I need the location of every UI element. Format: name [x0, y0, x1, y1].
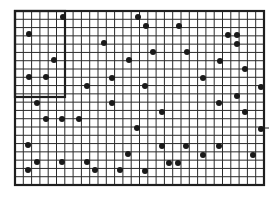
dot — [135, 14, 141, 20]
dot — [159, 143, 165, 149]
dot — [159, 109, 165, 115]
dot — [200, 152, 206, 158]
dot — [183, 143, 189, 149]
dot — [258, 84, 264, 90]
dot — [109, 75, 115, 81]
dot-grid-figure — [0, 0, 277, 199]
dot — [176, 23, 182, 29]
dot — [34, 159, 40, 165]
dot — [43, 74, 49, 80]
dot — [143, 23, 149, 29]
dot — [242, 66, 248, 72]
dot — [51, 57, 57, 63]
dot — [234, 32, 240, 38]
dot — [34, 100, 40, 106]
dot — [134, 125, 140, 131]
dot — [117, 167, 123, 173]
dot — [175, 160, 181, 166]
dot — [234, 93, 240, 99]
dot — [217, 58, 223, 64]
dot — [25, 167, 31, 173]
dot — [76, 116, 82, 122]
dot — [258, 126, 264, 132]
dot — [250, 152, 256, 158]
dot — [59, 116, 65, 122]
dot — [242, 109, 248, 115]
dot — [125, 151, 131, 157]
dot — [101, 40, 107, 46]
dot — [234, 41, 240, 47]
dot — [225, 32, 231, 38]
dot — [150, 49, 156, 55]
dot — [26, 31, 32, 37]
dot — [126, 57, 132, 63]
dot — [84, 159, 90, 165]
dot — [43, 116, 49, 122]
dot — [142, 83, 148, 89]
dot — [216, 100, 222, 106]
dot — [166, 160, 172, 166]
dot — [59, 159, 65, 165]
dot — [84, 83, 90, 89]
dot — [200, 75, 206, 81]
dot — [216, 143, 222, 149]
dot — [184, 49, 190, 55]
dot — [109, 100, 115, 106]
dot — [26, 74, 32, 80]
dot — [142, 168, 148, 174]
dot — [25, 142, 31, 148]
dot — [60, 14, 66, 20]
dot — [92, 167, 98, 173]
